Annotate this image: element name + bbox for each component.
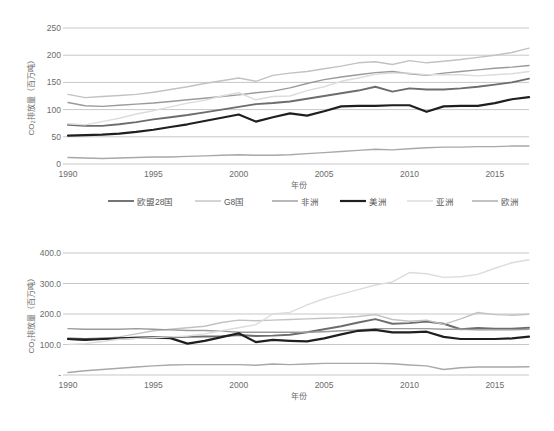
x-axis-tick-label: 2010	[400, 380, 419, 390]
legend-label: 亚洲	[436, 197, 454, 207]
x-axis-tick-label: 2005	[315, 169, 334, 179]
y-axis-title: CO₂排放量（百万吨）	[26, 274, 36, 353]
series-line	[68, 146, 529, 159]
series-line	[68, 329, 529, 333]
legend-label: G8国	[224, 197, 244, 207]
x-axis-tick-label: 1995	[144, 380, 163, 390]
y-axis-tick-label: 200.0	[40, 309, 62, 319]
y-axis-tick-label: 250	[47, 23, 61, 33]
y-axis-title: CO₂排放量（百万吨）	[26, 56, 36, 135]
plot-area-chart-top: 050100150200250199019952000200520102015年…	[0, 0, 554, 215]
series-line	[68, 72, 529, 125]
y-axis-tick-label: 100	[47, 105, 61, 115]
y-axis-tick-label: 400.0	[40, 248, 62, 258]
legend-label: 欧洲	[501, 197, 519, 207]
x-axis-tick-label: 2015	[485, 380, 504, 390]
legend-label: 美洲	[369, 197, 387, 207]
x-axis-tick-label: 2005	[315, 380, 334, 390]
x-axis-tick-label: 1995	[144, 169, 163, 179]
x-axis-title: 年份	[291, 180, 307, 190]
series-line	[68, 97, 529, 136]
legend-label: 欧盟28国	[137, 197, 173, 207]
y-axis-tick-label: 300.0	[40, 279, 62, 289]
x-axis-tick-label: 1990	[59, 380, 78, 390]
x-axis-tick-label: 2010	[400, 169, 419, 179]
y-axis-tick-label: 200	[47, 50, 61, 60]
x-axis-tick-label: 2000	[229, 380, 248, 390]
y-axis-tick-label: 100.0	[40, 340, 62, 350]
x-axis-tick-label: 2000	[229, 169, 248, 179]
legend-label: 非洲	[301, 197, 319, 207]
chart-co2-emissions-top: 050100150200250199019952000200520102015年…	[0, 0, 554, 215]
y-axis-tick-label: -	[58, 370, 61, 380]
y-axis-tick-label: 0	[56, 159, 61, 169]
series-line	[68, 312, 529, 340]
plot-area-chart-bottom: -100.0200.0300.0400.01990199520002005201…	[0, 215, 554, 431]
chart-co2-emissions-bottom: -100.0200.0300.0400.01990199520002005201…	[0, 215, 554, 431]
series-line	[68, 363, 529, 372]
x-axis-tick-label: 2015	[485, 169, 504, 179]
y-axis-tick-label: 50	[52, 132, 62, 142]
y-axis-tick-label: 150	[47, 77, 61, 87]
x-axis-title: 年份	[291, 391, 307, 401]
x-axis-tick-label: 1990	[59, 169, 78, 179]
